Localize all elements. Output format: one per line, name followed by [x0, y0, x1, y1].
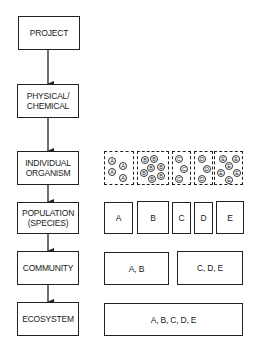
organism-circle: E: [217, 169, 225, 177]
community-box-cde: C, D, E: [177, 251, 243, 285]
ecosystem-label: A, B, C, D, E: [151, 315, 197, 325]
population-label: B: [150, 213, 155, 223]
organism-group-e: E E E E E E: [214, 151, 243, 185]
population-box-d: D: [194, 202, 213, 234]
organism-circle: D: [203, 165, 211, 173]
level-physical-chemical: PHYSICAL/ CHEMICAL: [17, 84, 79, 118]
level-population: POPULATION (SPECIES): [17, 202, 79, 234]
organism-circle: C: [180, 165, 188, 173]
organism-circle: E: [225, 176, 233, 184]
level-label: PROJECT: [30, 28, 68, 38]
ecosystem-box: A, B, C, D, E: [104, 303, 243, 336]
organism-circle: A: [108, 168, 116, 176]
community-label: C, D, E: [197, 263, 223, 273]
organism-circle: D: [198, 175, 206, 183]
level-label: POPULATION (SPECIES): [22, 208, 74, 228]
level-community: COMMUNITY: [17, 251, 79, 285]
organism-group-b: B B B B B B B: [137, 151, 169, 185]
organism-group-d: D D D: [194, 151, 213, 185]
community-label: A, B: [129, 264, 144, 274]
organism-circle: E: [225, 162, 233, 170]
population-label: C: [179, 213, 185, 223]
population-label: A: [116, 213, 121, 223]
organism-circle: B: [150, 155, 158, 163]
organism-circle: E: [233, 169, 241, 177]
population-label: E: [227, 213, 232, 223]
organism-circle: A: [119, 162, 127, 170]
level-ecosystem: ECOSYSTEM: [17, 302, 79, 336]
organism-group-a: A A A A: [104, 151, 134, 185]
level-project: PROJECT: [18, 16, 80, 50]
population-box-e: E: [216, 201, 244, 234]
organism-group-c: C C C: [172, 151, 191, 185]
level-individual-organism: INDIVIDUAL ORGANISM: [17, 151, 79, 185]
level-label: PHYSICAL/ CHEMICAL: [27, 91, 70, 111]
organism-circle: D: [198, 155, 206, 163]
population-box-c: C: [172, 202, 191, 234]
organism-circle: B: [140, 169, 148, 177]
population-box-b: B: [137, 201, 169, 234]
organism-circle: A: [119, 174, 127, 182]
organism-circle: C: [175, 175, 183, 183]
organism-circle: B: [157, 172, 165, 180]
organism-circle: B: [157, 163, 165, 171]
organism-circle: B: [147, 164, 155, 172]
level-label: ECOSYSTEM: [22, 314, 74, 324]
organism-circle: E: [232, 155, 240, 163]
organism-circle: C: [175, 155, 183, 163]
community-box-ab: A, B: [104, 252, 169, 285]
population-box-a: A: [104, 202, 133, 234]
population-label: D: [201, 213, 207, 223]
level-label: INDIVIDUAL ORGANISM: [25, 158, 71, 178]
organism-circle: B: [141, 156, 149, 164]
level-label: COMMUNITY: [23, 263, 74, 273]
organism-circle: A: [108, 157, 116, 165]
organism-circle: B: [148, 175, 156, 183]
